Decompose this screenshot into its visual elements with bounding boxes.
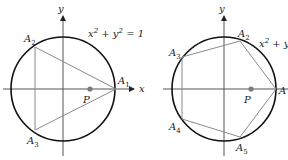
vertex-a3-label: A3 — [168, 47, 181, 61]
point-p — [248, 86, 253, 91]
vertex-a3-label: A3 — [26, 135, 39, 149]
diagram-canvas: y x x2 + y2 = 1 P A1 A2 A3 y x2 + y P A … — [0, 0, 288, 160]
x-axis-label: x — [139, 83, 145, 94]
point-p-label: P — [243, 94, 251, 105]
equation-label: x2 + y2 = 1 — [88, 27, 144, 39]
y-axis-label: y — [57, 3, 64, 14]
vertex-a2-label: A2 — [23, 33, 36, 47]
y-axis-label: y — [218, 3, 225, 14]
point-p — [87, 86, 92, 91]
point-p-label: P — [82, 94, 90, 105]
vertex-a5-label: A5 — [235, 142, 248, 156]
triangle-figure: y x x2 + y2 = 1 P A1 A2 A3 — [3, 3, 145, 156]
equation-label: x2 + y — [259, 37, 288, 49]
pentagon-figure: y x2 + y P A A2 A3 A4 A5 — [163, 3, 288, 156]
vertex-a4-label: A4 — [168, 121, 181, 135]
vertex-a1-label: A — [278, 85, 286, 96]
vertex-a1-label: A1 — [117, 75, 130, 89]
